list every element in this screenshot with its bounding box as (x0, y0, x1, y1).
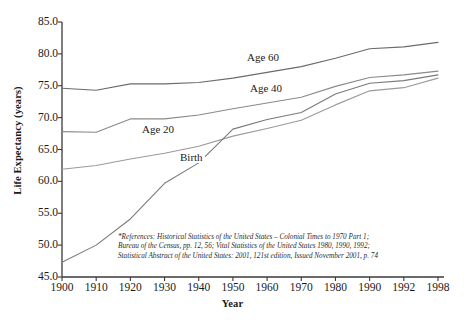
life-expectancy-chart: Life Expectancy (years) 45.050.055.060.0… (0, 0, 465, 320)
x-axis-title: Year (0, 298, 465, 309)
x-tick-label: 1998 (415, 281, 461, 293)
x-axis-tick-labels: 1900191019201930194019501960197019801990… (0, 0, 465, 320)
